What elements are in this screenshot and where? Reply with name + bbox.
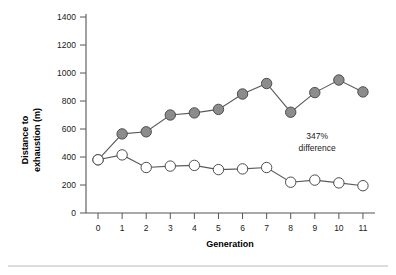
- data-point-control-3: [165, 161, 175, 171]
- y-tick-label: 800: [62, 96, 76, 106]
- x-tick-label: 2: [144, 223, 149, 233]
- data-point-control-10: [334, 178, 344, 188]
- data-point-control-0: [93, 155, 103, 165]
- data-point-selected-1: [117, 129, 127, 139]
- distance-to-exhaustion-line-chart: Distance to exhaustion (m) 0200400600800…: [0, 0, 396, 275]
- y-tick-label: 600: [62, 124, 76, 134]
- x-tick-label: 11: [359, 223, 368, 233]
- data-point-control-5: [213, 164, 223, 174]
- data-point-selected-7: [261, 78, 271, 88]
- annotation-line1: 347%: [306, 131, 328, 141]
- y-tick-label: 0: [71, 208, 76, 218]
- x-tick-label: 9: [312, 223, 317, 233]
- x-tick-label: 5: [216, 223, 221, 233]
- y-axis-title-line2: exhaustion (m): [32, 108, 42, 172]
- data-point-control-4: [189, 160, 199, 170]
- annotation-line2: difference: [299, 143, 336, 153]
- y-tick-label: 1400: [57, 12, 76, 22]
- data-point-selected-9: [310, 87, 320, 97]
- data-point-selected-4: [189, 108, 199, 118]
- chart-figure: Distance to exhaustion (m) 0200400600800…: [0, 0, 396, 275]
- data-point-selected-5: [213, 104, 223, 114]
- data-point-selected-8: [286, 107, 296, 117]
- data-point-selected-11: [358, 87, 368, 97]
- x-tick-label: 0: [96, 223, 101, 233]
- data-point-control-1: [117, 150, 127, 160]
- y-tick-label: 1200: [57, 40, 76, 50]
- data-point-control-11: [358, 181, 368, 191]
- data-point-selected-10: [334, 75, 344, 85]
- data-point-selected-6: [237, 89, 247, 99]
- data-point-selected-2: [141, 127, 151, 137]
- data-point-selected-3: [165, 110, 175, 120]
- x-tick-label: 1: [120, 223, 125, 233]
- y-axis-title-line1: Distance to: [20, 115, 30, 164]
- data-point-control-2: [141, 162, 151, 172]
- data-point-control-6: [237, 164, 247, 174]
- data-point-control-7: [261, 162, 271, 172]
- x-tick-label: 6: [240, 223, 245, 233]
- data-point-control-9: [310, 175, 320, 185]
- x-tick-label: 8: [288, 223, 293, 233]
- data-point-control-8: [286, 177, 296, 187]
- y-tick-label: 1000: [57, 68, 76, 78]
- x-tick-label: 3: [168, 223, 173, 233]
- x-tick-label: 7: [264, 223, 269, 233]
- x-axis-title: Generation: [206, 239, 254, 249]
- x-tick-label: 10: [334, 223, 344, 233]
- x-tick-label: 4: [192, 223, 197, 233]
- y-tick-label: 200: [62, 180, 76, 190]
- y-tick-label: 400: [62, 152, 76, 162]
